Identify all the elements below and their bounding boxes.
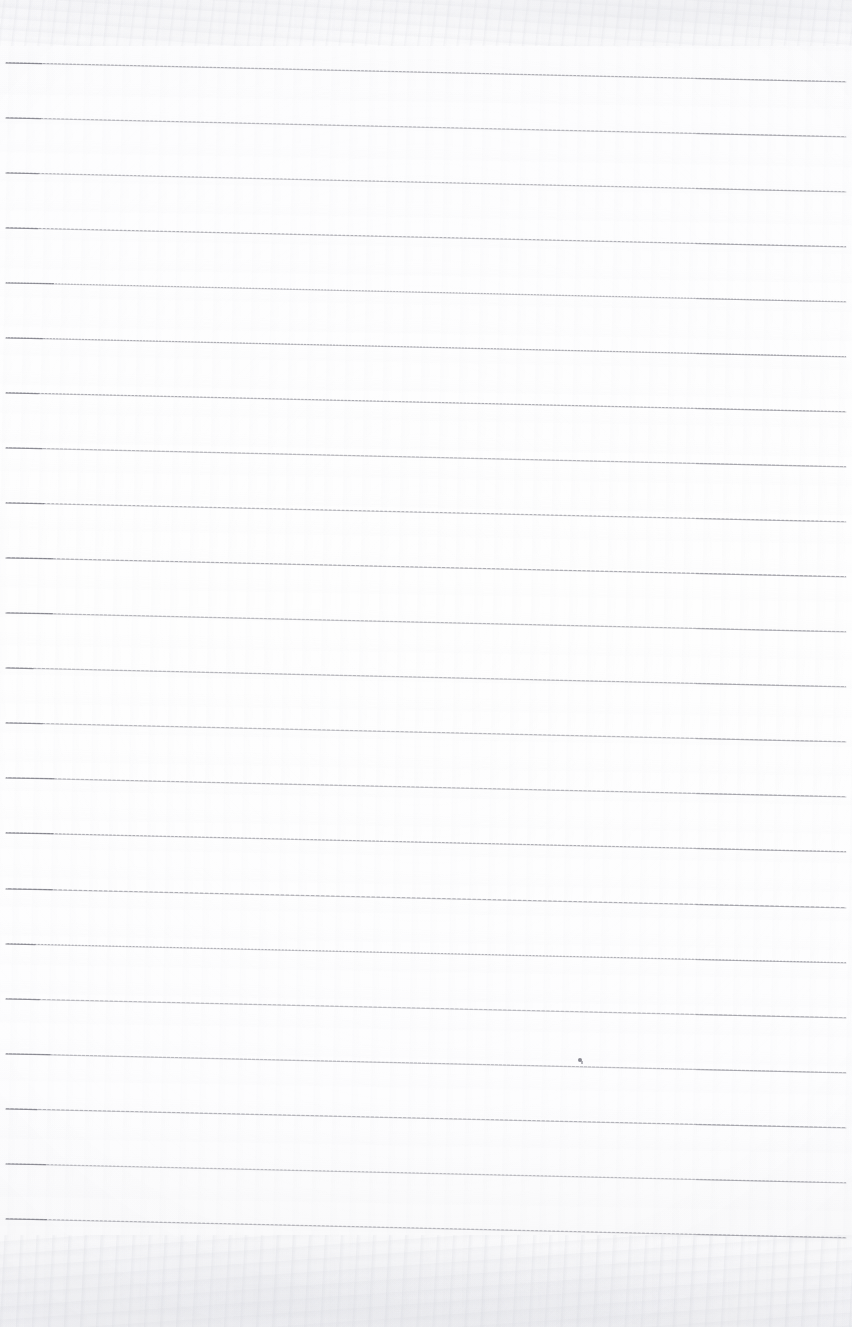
ink-speck-tail-icon <box>581 1061 583 1064</box>
scanned-page <box>0 0 852 1327</box>
scan-vignette <box>0 0 852 1327</box>
